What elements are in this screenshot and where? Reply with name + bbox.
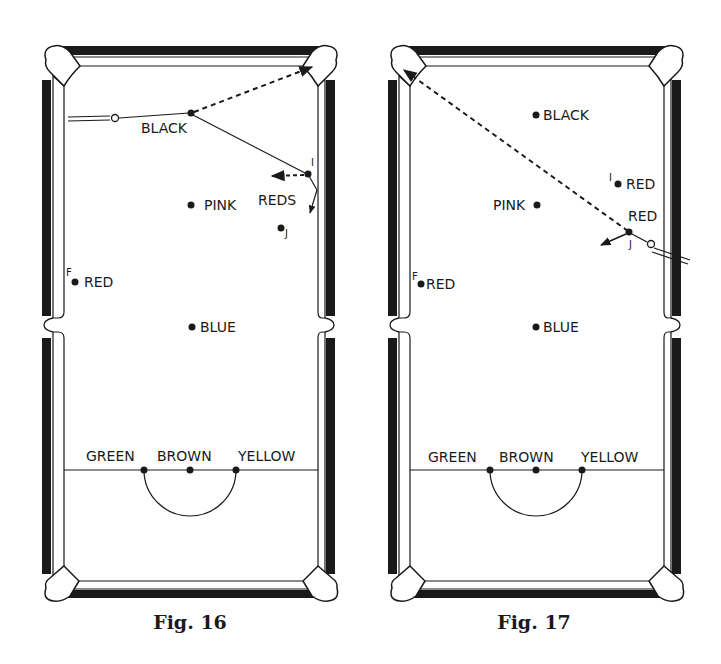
figure-17: BLACK I RED PINK RED J F RED BLUE GREEN … <box>388 46 690 633</box>
label-pink: PINK <box>493 197 526 213</box>
marker-i: I <box>311 157 314 168</box>
red-ball-f <box>418 281 425 288</box>
label-red-j: RED <box>628 208 657 224</box>
label-brown: BROWN <box>157 448 212 464</box>
dashed-path-black <box>194 67 312 112</box>
label-yellow: YELLOW <box>237 448 296 464</box>
marker-f: F <box>66 267 72 278</box>
pink-ball <box>188 202 195 209</box>
red-ball-j <box>626 229 633 236</box>
red-ball-f <box>72 279 79 286</box>
red-ball-j <box>278 225 285 232</box>
snooker-table <box>42 46 338 602</box>
caption-fig-16: Fig. 16 <box>153 611 227 633</box>
label-pink: PINK <box>204 197 237 213</box>
blue-ball <box>189 324 196 331</box>
blue-ball <box>533 324 540 331</box>
label-red-f: RED <box>84 274 113 290</box>
cue-ball <box>112 115 119 122</box>
label-blue: BLUE <box>200 319 236 335</box>
label-green: GREEN <box>428 449 477 465</box>
label-red-i: RED <box>626 176 655 192</box>
caption-fig-17: Fig. 17 <box>497 611 571 633</box>
cue <box>68 116 110 117</box>
label-red-f: RED <box>426 276 455 292</box>
label-blue: BLUE <box>543 319 579 335</box>
marker-j: J <box>628 239 632 250</box>
marker-j: J <box>284 228 288 239</box>
label-black: BLACK <box>543 107 590 123</box>
pink-ball <box>534 202 541 209</box>
label-brown: BROWN <box>499 449 554 465</box>
figure-16: BLACK REDS I J PINK F RED BLUE GREEN BRO… <box>42 46 338 633</box>
black-ball <box>533 112 540 119</box>
label-reds: REDS <box>258 192 296 208</box>
marker-i: I <box>609 172 612 183</box>
snooker-table <box>388 46 684 602</box>
label-green: GREEN <box>86 448 135 464</box>
cue-ball <box>648 241 655 248</box>
red-ball-i <box>305 171 312 178</box>
label-yellow: YELLOW <box>580 449 639 465</box>
red-ball-i <box>615 181 622 188</box>
marker-f: F <box>412 271 418 282</box>
label-black: BLACK <box>141 120 188 136</box>
